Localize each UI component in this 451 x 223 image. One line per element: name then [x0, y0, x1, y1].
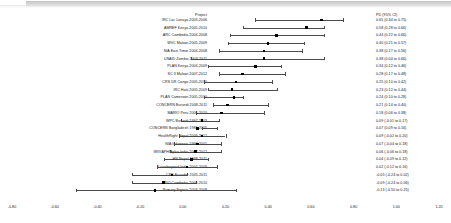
- point-estimate-marker: [263, 57, 266, 60]
- study-label: MARIO Peru 2006-2010: [0, 111, 207, 115]
- point-estimate-marker: [226, 104, 229, 107]
- x-axis-tick-label: 0.80: [350, 205, 357, 209]
- ci-cap-upper: [264, 111, 265, 114]
- ci-cap-lower: [174, 142, 175, 145]
- ci-cap-upper: [217, 127, 218, 130]
- effect-value: 0.23 (0.12 to 0.44): [376, 88, 406, 92]
- effect-value: 0.07 (0.09 to 0.16): [376, 126, 406, 130]
- study-label: IRC Haiti 2005-2009: [0, 88, 207, 92]
- effect-value: 0.34 (0.12 to 0.46): [376, 64, 406, 68]
- effect-value: 0.09 (-0.01 to 0.17): [376, 119, 408, 123]
- confidence-interval-line: [132, 175, 188, 176]
- x-axis-tick-label: -0.20: [136, 205, 144, 209]
- ci-cap-upper: [285, 72, 286, 75]
- study-label: IRC Lac Lanaya 2003-2006: [0, 18, 207, 22]
- ci-cap-upper: [302, 49, 303, 52]
- confidence-interval-line: [219, 74, 285, 75]
- point-estimate-marker: [171, 174, 174, 177]
- point-estimate-marker: [186, 166, 189, 169]
- confidence-interval-line: [243, 28, 324, 29]
- effect-value: 0.58 (0.28 to 0.66): [376, 26, 406, 30]
- effect-value: 0.24 (0.10 to 0.28): [376, 95, 406, 99]
- study-label: WPC Burundi 1997-2003: [0, 119, 207, 123]
- point-estimate-marker: [220, 112, 223, 115]
- x-axis-tick-label: 0.00: [179, 205, 186, 209]
- ci-cap-upper: [304, 42, 305, 45]
- point-estimate-marker: [162, 181, 165, 184]
- ci-cap-upper: [268, 103, 269, 106]
- point-estimate-marker: [320, 19, 323, 22]
- point-estimate-marker: [241, 73, 244, 76]
- ci-cap-upper: [221, 150, 222, 153]
- effect-value: 0.06 (-0.06 to 0.18): [376, 150, 408, 154]
- ci-cap-upper: [272, 80, 273, 83]
- x-axis-tick-label: 0.40: [265, 205, 272, 209]
- column-header-effect: PD (95% CI): [376, 13, 397, 17]
- ci-cap-lower: [219, 72, 220, 75]
- point-estimate-marker: [196, 143, 199, 146]
- effect-value: -0.05 (-0.24 to 0.02): [376, 173, 409, 177]
- effect-value: 0.21 (0.14 to 0.40): [376, 103, 406, 107]
- ci-cap-upper: [226, 134, 227, 137]
- x-axis-tick-label: 1.20: [435, 205, 442, 209]
- point-estimate-marker: [275, 34, 278, 37]
- effect-value: 0.40 (0.21 to 0.57): [376, 41, 406, 45]
- point-estimate-marker: [235, 81, 238, 84]
- x-axis-tick-label: 1.00: [393, 205, 400, 209]
- confidence-interval-line: [191, 59, 323, 60]
- ci-cap-lower: [208, 65, 209, 68]
- x-axis-tick-label: 0.20: [222, 205, 229, 209]
- point-estimate-marker: [267, 42, 270, 45]
- ci-cap-upper: [217, 165, 218, 168]
- ci-cap-upper: [208, 158, 209, 161]
- effect-value: 0.04 (-0.09 to 0.12): [376, 157, 408, 161]
- study-label: CRS DR Congo 2005-2010: [0, 80, 207, 84]
- ci-cap-lower: [181, 119, 182, 122]
- effect-value: 0.25 (0.10 to 0.42): [376, 80, 406, 84]
- effect-value: 0.02 (-0.12 to 0.16): [376, 165, 408, 169]
- study-label: WVC Malawi 2005-2009: [0, 41, 207, 45]
- effect-value: 0.44 (0.22 to 0.66): [376, 33, 406, 37]
- x-axis-tick-label: -0.80: [8, 205, 16, 209]
- point-estimate-marker: [233, 96, 236, 99]
- study-label: PLAN Cameroon 2005-2010: [0, 95, 207, 99]
- ci-cap-upper: [196, 181, 197, 184]
- confidence-interval-line: [202, 128, 217, 129]
- confidence-interval-line: [255, 20, 343, 21]
- ci-cap-upper: [324, 34, 325, 37]
- confidence-interval-line: [204, 97, 242, 98]
- ci-cap-lower: [196, 111, 197, 114]
- ci-cap-lower: [230, 34, 231, 37]
- x-axis-tick-label: -0.40: [93, 205, 101, 209]
- ci-cap-lower: [157, 165, 158, 168]
- ci-cap-upper: [277, 88, 278, 91]
- point-estimate-marker: [231, 88, 234, 91]
- point-estimate-marker: [254, 65, 257, 68]
- study-label: NIA East Timor 2004-2008: [0, 49, 207, 53]
- x-axis-tick-label: -0.60: [50, 205, 58, 209]
- ci-cap-lower: [213, 103, 214, 106]
- effect-value: 0.65 (0.34 to 0.75): [376, 18, 406, 22]
- effect-value: 0.09 (-0.02 to 0.20): [376, 134, 408, 138]
- study-label: CONCERN Bangladesh 1989-2005: [0, 126, 207, 130]
- ci-cap-upper: [219, 119, 220, 122]
- confidence-interval-line: [208, 66, 281, 67]
- ci-cap-lower: [132, 173, 133, 176]
- effect-value: -0.13 (-0.50 to 0.25): [376, 188, 409, 192]
- ci-cap-lower: [228, 42, 229, 45]
- effect-value: 0.28 (0.17 to 0.48): [376, 72, 406, 76]
- effect-value: 0.07 (-0.04 to 0.18): [376, 142, 408, 146]
- ci-cap-upper: [324, 26, 325, 29]
- point-estimate-marker: [154, 189, 157, 192]
- ci-cap-lower: [76, 189, 77, 192]
- confidence-interval-line: [208, 90, 276, 91]
- ci-cap-upper: [281, 65, 282, 68]
- ci-cap-lower: [170, 150, 171, 153]
- ci-cap-upper: [324, 57, 325, 60]
- column-header-project: Project: [0, 13, 207, 17]
- study-label: AMREF Kenya 2005-2010: [0, 26, 207, 30]
- confidence-interval-line: [196, 113, 264, 114]
- study-label: CONCERN Burundi 2008-2011: [0, 103, 207, 107]
- ci-cap-lower: [191, 57, 192, 60]
- confidence-interval-line: [204, 82, 272, 83]
